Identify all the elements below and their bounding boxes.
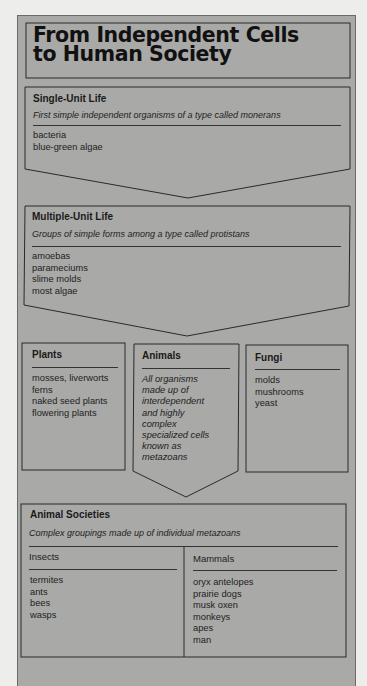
insects-heading: Insects bbox=[29, 551, 59, 563]
list-item: blue-green algae bbox=[33, 142, 103, 154]
description-line: known as bbox=[142, 441, 209, 452]
list-item: termites bbox=[30, 575, 63, 587]
description-line: All organisms bbox=[142, 374, 209, 385]
list-item: musk oxen bbox=[193, 600, 253, 612]
description-line: interdependent bbox=[142, 396, 209, 407]
list-item: parameciums bbox=[32, 263, 88, 275]
single-unit-list: bacteria blue-green algae bbox=[33, 130, 103, 153]
fungi-rule bbox=[255, 369, 340, 370]
mammals-heading: Mammals bbox=[193, 553, 234, 565]
plants-list: mosses, liverworts ferns naked seed plan… bbox=[32, 373, 108, 419]
list-item: apes bbox=[193, 623, 253, 635]
single-unit-description: First simple independent organisms of a … bbox=[33, 110, 281, 120]
multiple-unit-rule bbox=[32, 246, 341, 247]
description-line: metazoans bbox=[142, 452, 209, 463]
animal-societies-rule bbox=[29, 546, 338, 547]
page-title: From Independent Cells to Human Society bbox=[33, 26, 299, 64]
animal-societies-heading: Animal Societies bbox=[30, 509, 110, 520]
list-item: flowering plants bbox=[32, 408, 108, 420]
list-item: man bbox=[193, 635, 253, 647]
list-item: monkeys bbox=[193, 612, 253, 624]
animals-heading: Animals bbox=[142, 350, 181, 361]
list-item: molds bbox=[255, 375, 304, 387]
mammals-rule bbox=[193, 570, 337, 571]
list-item: bacteria bbox=[33, 130, 103, 142]
insects-list: termites ants bees wasps bbox=[30, 575, 63, 621]
list-item: prairie dogs bbox=[193, 589, 253, 601]
plants-heading: Plants bbox=[32, 349, 62, 360]
list-item: naked seed plants bbox=[32, 396, 108, 408]
list-item: mosses, liverworts bbox=[32, 373, 108, 385]
fungi-list: molds mushrooms yeast bbox=[255, 375, 304, 410]
description-line: complex bbox=[142, 419, 209, 430]
single-unit-rule bbox=[33, 125, 341, 126]
list-item: wasps bbox=[30, 610, 63, 622]
animals-description: All organisms made up of interdependent … bbox=[142, 374, 209, 464]
list-item: ferns bbox=[32, 385, 108, 397]
plants-rule bbox=[32, 367, 118, 368]
list-item: mushrooms bbox=[255, 387, 304, 399]
multiple-unit-list: amoebas parameciums slime molds most alg… bbox=[32, 251, 88, 297]
mammals-list: oryx antelopes prairie dogs musk oxen mo… bbox=[193, 577, 253, 647]
description-line: specialized cells bbox=[142, 430, 209, 441]
list-item: yeast bbox=[255, 398, 304, 410]
list-item: most algae bbox=[32, 286, 88, 298]
description-line: made up of bbox=[142, 385, 209, 396]
list-item: slime molds bbox=[32, 274, 88, 286]
title-line-2: to Human Society bbox=[33, 45, 299, 64]
multiple-unit-description: Groups of simple forms among a type call… bbox=[32, 229, 250, 239]
list-item: bees bbox=[30, 598, 63, 610]
single-unit-heading: Single-Unit Life bbox=[33, 93, 106, 104]
list-item: oryx antelopes bbox=[193, 577, 253, 589]
animals-rule bbox=[142, 368, 230, 369]
animal-societies-description: Complex groupings made up of individual … bbox=[29, 528, 241, 538]
fungi-heading: Fungi bbox=[255, 352, 282, 363]
list-item: ants bbox=[30, 587, 63, 599]
list-item: amoebas bbox=[32, 251, 88, 263]
insects-rule bbox=[29, 569, 177, 570]
multiple-unit-heading: Multiple-Unit Life bbox=[32, 211, 113, 222]
description-line: and highly bbox=[142, 408, 209, 419]
